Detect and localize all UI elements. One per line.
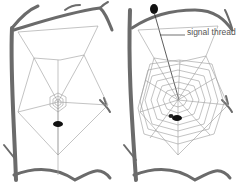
signal-thread — [154, 12, 179, 100]
web-left — [18, 26, 108, 175]
spider-icon — [53, 121, 63, 127]
left-panel — [4, 2, 112, 180]
radii — [140, 56, 228, 155]
web-right — [138, 26, 228, 155]
prey-icon — [169, 114, 174, 118]
signal-thread-label: signal thread — [187, 27, 236, 37]
capture-spiral — [138, 60, 224, 144]
spider-web-diagram: signal thread — [0, 0, 246, 185]
spider-icon-hub — [172, 115, 182, 121]
